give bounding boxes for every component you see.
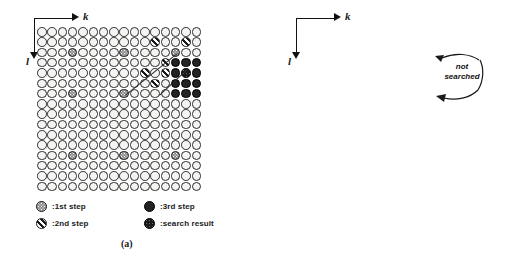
- lattice-cell-empty: [161, 27, 171, 37]
- lattice-cell-empty: [89, 48, 99, 58]
- lattice-cell-dark: [192, 68, 202, 78]
- lattice-cell-empty: [192, 130, 202, 140]
- lattice-cell-empty: [58, 37, 68, 47]
- lattice-cell-empty: [89, 109, 99, 119]
- legend-swatch-dot-icon: [36, 201, 47, 212]
- lattice-cell-empty: [109, 151, 119, 161]
- lattice-cell-empty: [89, 89, 99, 99]
- panel-b: k l not searched :1st and 2nd steps :fin…: [262, 0, 524, 259]
- lattice-cell-empty: [119, 161, 129, 171]
- lattice-cell-empty: [181, 140, 191, 150]
- lattice-cell-empty: [78, 140, 88, 150]
- lattice-cell-empty: [140, 130, 150, 140]
- lattice-cell-empty: [140, 171, 150, 181]
- lattice-cell-empty: [37, 89, 47, 99]
- lattice-cell-empty: [68, 79, 78, 89]
- lattice-cell-empty: [89, 130, 99, 140]
- lattice-cell-empty: [109, 48, 119, 58]
- legend-swatch-stripe-icon: [36, 218, 47, 229]
- lattice-cell-empty: [192, 151, 202, 161]
- lattice-cell-empty: [58, 130, 68, 140]
- lattice-cell-empty: [161, 171, 171, 181]
- lattice-cell-empty: [171, 130, 181, 140]
- lattice-cell-empty: [150, 120, 160, 130]
- lattice-cell-empty: [140, 58, 150, 68]
- k-axis-line: [34, 18, 74, 19]
- lattice-cell-empty: [89, 182, 99, 192]
- legend-item-1: :2nd step: [36, 216, 88, 231]
- lattice-cell-empty: [171, 37, 181, 47]
- lattice-cell-empty: [130, 68, 140, 78]
- lattice-cell-empty: [119, 109, 129, 119]
- lattice-cell-empty: [47, 161, 57, 171]
- lattice-cell-empty: [109, 27, 119, 37]
- lattice-cell-empty: [119, 68, 129, 78]
- lattice-cell-empty: [181, 151, 191, 161]
- lattice-cell-dark: [171, 89, 181, 99]
- arrow-right-icon: [72, 13, 79, 21]
- lattice-cell-empty: [181, 109, 191, 119]
- lattice-cell-dark: [181, 89, 191, 99]
- arrow-down-icon: [292, 52, 300, 59]
- lattice-cell-empty: [171, 99, 181, 109]
- lattice-cell-dark: [171, 58, 181, 68]
- lattice-cell-empty: [192, 27, 202, 37]
- lattice-cell-empty: [58, 99, 68, 109]
- lattice-cell-empty: [99, 68, 109, 78]
- lattice-cell-empty: [171, 120, 181, 130]
- lattice-cell-stripe: [161, 68, 171, 78]
- lattice-cell-empty: [161, 182, 171, 192]
- lattice-cell-empty: [130, 120, 140, 130]
- lattice-cell-empty: [109, 171, 119, 181]
- lattice-cell-empty: [99, 99, 109, 109]
- lattice-cell-dark: [181, 58, 191, 68]
- lattice-cell-empty: [140, 161, 150, 171]
- panel-a: k l :1st step :3rd step :2nd step :searc…: [0, 0, 262, 259]
- lattice-cell-empty: [119, 140, 129, 150]
- lattice-cell-empty: [37, 161, 47, 171]
- lattice-cell-empty: [99, 130, 109, 140]
- lattice-cell-empty: [150, 130, 160, 140]
- lattice-cell-dot: [119, 48, 129, 58]
- lattice-cell-empty: [47, 37, 57, 47]
- lattice-cell-empty: [37, 68, 47, 78]
- lattice-cell-empty: [109, 58, 119, 68]
- lattice-cell-empty: [140, 120, 150, 130]
- lattice-cell-empty: [130, 109, 140, 119]
- lattice-cell-empty: [181, 130, 191, 140]
- lattice-cell-empty: [109, 99, 119, 109]
- lattice-cell-dot: [68, 151, 78, 161]
- lattice-cell-empty: [150, 151, 160, 161]
- lattice-cell-dot: [68, 48, 78, 58]
- lattice-cell-empty: [140, 48, 150, 58]
- lattice-cell-empty: [99, 161, 109, 171]
- lattice-cell-empty: [89, 99, 99, 109]
- lattice-cell-empty: [140, 99, 150, 109]
- lattice-cell-empty: [119, 58, 129, 68]
- lattice-cell-empty: [150, 109, 160, 119]
- lattice-cell-empty: [140, 182, 150, 192]
- lattice-cell-empty: [78, 58, 88, 68]
- lattice-cell-dot: [68, 89, 78, 99]
- l-axis-line: [296, 18, 297, 54]
- lattice-cell-empty: [78, 37, 88, 47]
- lattice-cell-empty: [78, 79, 88, 89]
- lattice-cell-empty: [119, 79, 129, 89]
- lattice-cell-empty: [99, 79, 109, 89]
- lattice-cell-empty: [181, 99, 191, 109]
- lattice-cell-empty: [89, 140, 99, 150]
- legend-label-2: :3rd step: [160, 202, 195, 211]
- lattice-cell-empty: [119, 99, 129, 109]
- axis-label-l: l: [26, 56, 29, 67]
- lattice-cell-empty: [68, 140, 78, 150]
- lattice-cell-empty: [37, 109, 47, 119]
- lattice-cell-empty: [192, 48, 202, 58]
- lattice-cell-empty: [68, 68, 78, 78]
- lattice-cell-empty: [89, 27, 99, 37]
- lattice-cell-empty: [192, 140, 202, 150]
- lattice-cell-empty: [37, 79, 47, 89]
- lattice-cell-empty: [150, 48, 160, 58]
- lattice-cell-empty: [37, 120, 47, 130]
- lattice-cell-empty: [47, 182, 57, 192]
- lattice-cell-empty: [150, 99, 160, 109]
